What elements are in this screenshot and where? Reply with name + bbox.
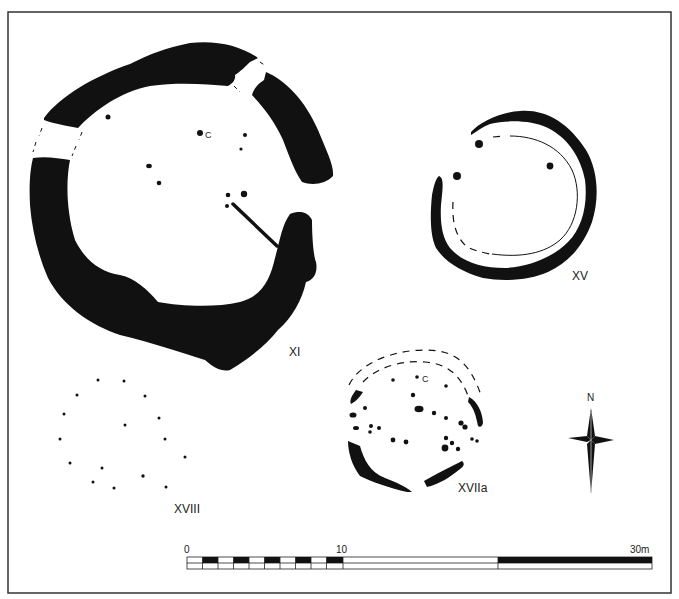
post-hole-label-c-xi: C	[205, 130, 212, 140]
structure-xviia	[348, 350, 483, 492]
scale-label-30m: 30m	[630, 545, 649, 555]
structure-label-xi: XI	[289, 346, 300, 358]
structure-xv	[431, 111, 597, 280]
structure-label-xviii: XVIII	[174, 503, 200, 515]
site-plan: C	[0, 0, 679, 599]
scale-bar	[187, 557, 652, 569]
scale-label-10: 10	[336, 545, 347, 555]
post-hole-label-c-xviia: C	[422, 374, 429, 384]
scale-label-0: 0	[184, 545, 190, 555]
structure-label-xv: XV	[572, 270, 588, 282]
structure-label-xviia: XVIIa	[458, 482, 487, 494]
post-hole	[106, 115, 111, 120]
north-label: N	[587, 393, 594, 403]
gully	[233, 204, 277, 246]
structure-xviii	[59, 379, 187, 490]
north-arrow-icon	[568, 408, 614, 494]
structure-xi	[30, 42, 333, 370]
post-hole-central	[197, 130, 203, 136]
